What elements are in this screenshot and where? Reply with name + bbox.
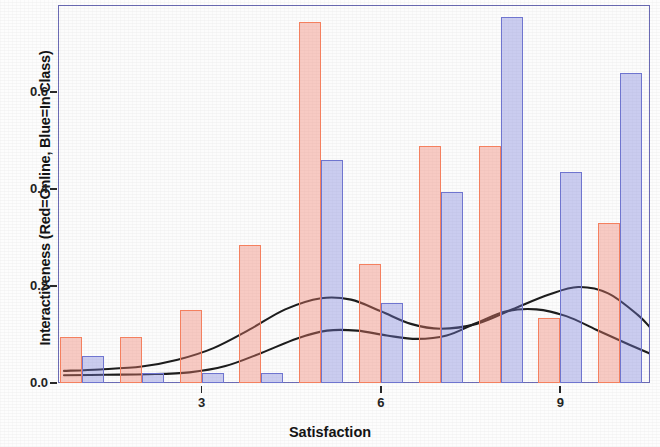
histogram-bar xyxy=(501,17,523,383)
histogram-bar xyxy=(441,192,463,383)
histogram-bar xyxy=(120,337,142,383)
chart-figure: Interactiveness (Red=Online, Blue=In Cla… xyxy=(0,0,660,447)
histogram-bar xyxy=(239,245,261,383)
y-tick-label: 0.4 xyxy=(2,181,48,196)
y-tick-label: 0.2 xyxy=(2,278,48,293)
histogram-bar xyxy=(598,223,620,383)
histogram-bar xyxy=(299,22,321,383)
x-tick-label: 6 xyxy=(361,395,401,410)
histogram-bar xyxy=(180,310,202,383)
y-tick-mark xyxy=(50,382,57,384)
y-tick-label: 0.6 xyxy=(2,84,48,99)
y-tick-mark xyxy=(50,285,57,287)
y-tick-mark xyxy=(50,91,57,93)
histogram-bar xyxy=(381,303,403,383)
x-tick-mark xyxy=(559,386,561,393)
x-tick-label: 9 xyxy=(540,395,580,410)
histogram-bar xyxy=(82,356,104,383)
histogram-bar xyxy=(560,172,582,383)
histogram-bar xyxy=(202,373,224,383)
x-tick-mark xyxy=(380,386,382,393)
x-tick-mark xyxy=(201,386,203,393)
y-tick-mark xyxy=(50,188,57,190)
histogram-bar xyxy=(142,373,164,383)
x-tick-label: 3 xyxy=(182,395,222,410)
histogram-bar xyxy=(321,160,343,383)
histogram-bar xyxy=(620,73,642,383)
x-axis-title: Satisfaction xyxy=(0,424,660,440)
histogram-bar xyxy=(479,146,501,383)
histogram-bar xyxy=(419,146,441,383)
histogram-bar xyxy=(359,264,381,383)
y-axis-title: Interactiveness (Red=Online, Blue=In Cla… xyxy=(37,3,53,393)
y-tick-label: 0.0 xyxy=(2,375,48,390)
histogram-bar xyxy=(538,318,560,383)
histogram-bar xyxy=(261,373,283,383)
histogram-bar xyxy=(60,337,82,383)
plot-panel xyxy=(58,5,650,383)
